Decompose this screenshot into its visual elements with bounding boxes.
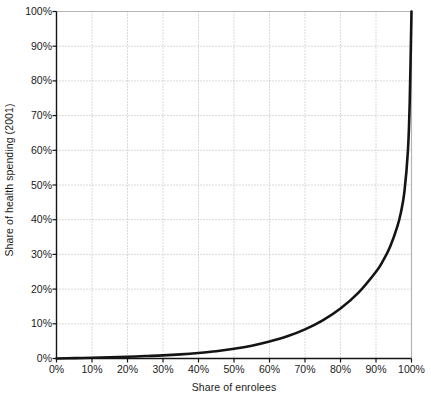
y-axis-title-text: Share of health spending (2001)	[3, 103, 15, 256]
y-tick-label: 10%	[18, 318, 52, 329]
y-tick-label: 60%	[18, 145, 52, 156]
y-tick-label: 80%	[18, 75, 52, 86]
y-axis-tick-labels: 0%10%20%30%40%50%60%70%80%90%100%	[16, 0, 52, 403]
grid-lines	[57, 12, 412, 359]
x-tick-label: 50%	[214, 364, 254, 375]
y-tick-label: 50%	[18, 180, 52, 191]
y-tick-label: 30%	[18, 249, 52, 260]
plot-area-svg	[0, 0, 431, 403]
x-tick-label: 90%	[356, 364, 396, 375]
y-axis-title: Share of health spending (2001)	[0, 0, 18, 360]
y-tick-label: 0%	[18, 353, 52, 364]
y-tick-label: 70%	[18, 110, 52, 121]
x-tick-label: 60%	[250, 364, 290, 375]
x-tick-label: 40%	[179, 364, 219, 375]
y-tick-label: 40%	[18, 214, 52, 225]
y-tick-label: 100%	[18, 6, 52, 17]
y-tick-label: 90%	[18, 41, 52, 52]
x-axis-title: Share of enrolees	[56, 381, 412, 393]
y-tick-label: 20%	[18, 284, 52, 295]
x-tick-label: 30%	[143, 364, 183, 375]
x-tick-label: 70%	[285, 364, 325, 375]
x-axis-tick-labels: 0%10%20%30%40%50%60%70%80%90%100%	[0, 364, 431, 380]
x-tick-label: 80%	[321, 364, 361, 375]
concentration-curve-chart: 0%10%20%30%40%50%60%70%80%90%100% 0%10%2…	[0, 0, 431, 403]
x-tick-label: 20%	[108, 364, 148, 375]
tick-marks	[53, 12, 412, 363]
x-tick-label: 100%	[392, 364, 431, 375]
x-axis-title-text: Share of enrolees	[192, 381, 277, 393]
x-tick-label: 10%	[72, 364, 112, 375]
x-tick-label: 0%	[37, 364, 77, 375]
